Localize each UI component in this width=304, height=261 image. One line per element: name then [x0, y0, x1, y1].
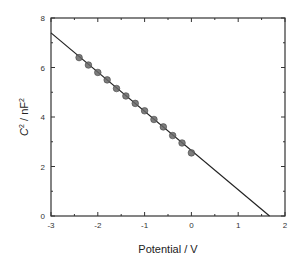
data-point — [104, 77, 111, 84]
data-point — [188, 150, 195, 157]
mott-schottky-chart: -3-2-101202468 Potential / V C2 / nF2 — [0, 0, 304, 261]
fit-line — [51, 33, 270, 216]
data-point — [160, 124, 167, 131]
data-point — [169, 132, 176, 139]
y-axis-label: C2 / nF2 — [18, 98, 30, 136]
data-point — [76, 54, 83, 61]
y-tick-label: 2 — [41, 163, 46, 172]
y-tick-label: 4 — [41, 113, 46, 122]
x-tick-label: -2 — [94, 221, 102, 230]
plot-frame — [51, 18, 285, 216]
data-point — [132, 100, 139, 107]
y-tick-label: 0 — [41, 212, 46, 221]
y-axis-label-var: C — [18, 128, 30, 136]
y-tick-label: 6 — [41, 64, 46, 73]
data-point — [179, 140, 186, 147]
x-tick-label: 0 — [189, 221, 194, 230]
data-point — [95, 69, 102, 76]
data-point — [85, 62, 92, 69]
data-point — [113, 85, 120, 92]
x-tick-label: 1 — [236, 221, 241, 230]
x-axis-label: Potential / V — [138, 243, 198, 255]
data-point — [141, 108, 148, 115]
y-axis-label-unit: / nF — [18, 102, 30, 124]
data-point — [151, 116, 158, 123]
x-tick-label: -3 — [47, 221, 55, 230]
x-tick-label: -1 — [141, 221, 149, 230]
y-axis-label-sup2: 2 — [18, 98, 25, 102]
x-tick-label: 2 — [283, 221, 288, 230]
data-point — [123, 93, 130, 100]
y-tick-label: 8 — [41, 14, 46, 23]
